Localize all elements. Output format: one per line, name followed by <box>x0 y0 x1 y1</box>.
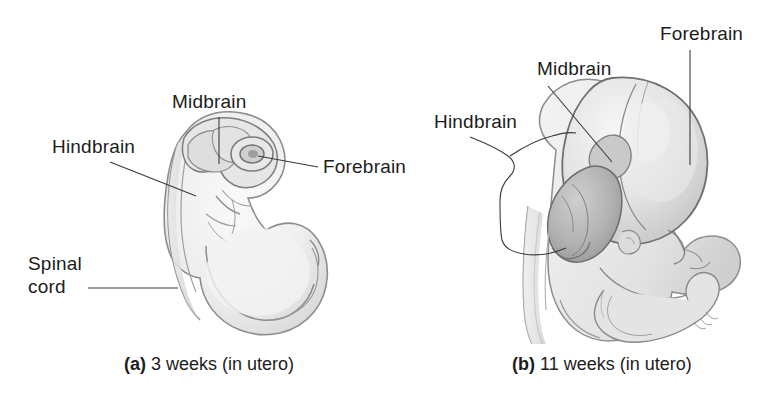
caption-text-a: 3 weeks (in utero) <box>151 354 294 374</box>
embryo-3-weeks-drawing <box>164 112 327 335</box>
caption-panel-b: (b) 11 weeks (in utero) <box>512 354 692 375</box>
label-spinal-cord-line2-panel-a: cord <box>28 276 66 297</box>
label-midbrain-panel-a: Midbrain <box>172 91 246 112</box>
label-forebrain-panel-b: Forebrain <box>660 23 743 44</box>
label-spinal-cord-line1-panel-a: Spinal <box>28 253 82 274</box>
fetus-11-weeks-drawing <box>523 77 740 344</box>
caption-text-b: 11 weeks (in utero) <box>540 354 692 374</box>
label-midbrain-panel-b: Midbrain <box>537 58 611 79</box>
caption-marker-b: (b) <box>512 354 535 374</box>
caption-marker-a: (a) <box>124 354 146 374</box>
figure-artwork <box>0 0 775 401</box>
label-hindbrain-panel-a: Hindbrain <box>52 136 135 157</box>
label-forebrain-panel-a: Forebrain <box>323 156 406 177</box>
label-hindbrain-panel-b: Hindbrain <box>434 111 517 132</box>
caption-panel-a: (a) 3 weeks (in utero) <box>124 354 294 375</box>
embryo-brain-development-figure: Hindbrain Midbrain Forebrain Spinal cord… <box>0 0 775 401</box>
